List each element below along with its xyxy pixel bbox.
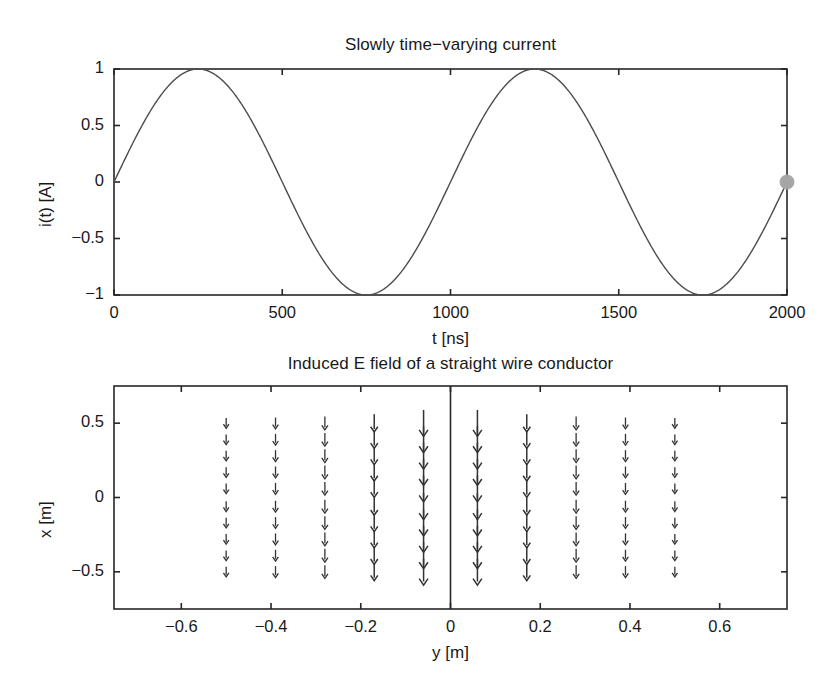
e-field-arrow bbox=[273, 434, 279, 445]
e-field-arrow bbox=[623, 467, 629, 478]
e-field-arrow bbox=[672, 434, 677, 444]
e-field-arrow bbox=[623, 517, 629, 528]
e-field-arrow bbox=[523, 447, 530, 465]
e-field-arrow bbox=[473, 559, 482, 586]
e-field-arrow bbox=[573, 500, 579, 513]
e-field-arrow bbox=[523, 498, 530, 516]
bottom-plot-graphic bbox=[0, 0, 832, 694]
e-field-arrow bbox=[371, 480, 378, 498]
e-field-arrow bbox=[273, 417, 279, 428]
e-field-arrow bbox=[371, 431, 378, 449]
bottom-plot-y-tick-label: 0.5 bbox=[4, 412, 104, 431]
e-field-arrow bbox=[223, 484, 228, 494]
e-field-arrow bbox=[273, 483, 279, 494]
e-field-arrow bbox=[322, 433, 328, 446]
e-field-arrow bbox=[672, 418, 677, 428]
e-field-arrow bbox=[322, 417, 328, 430]
e-field-arrow bbox=[322, 549, 328, 562]
e-field-arrow bbox=[223, 550, 228, 560]
e-field-arrow bbox=[573, 417, 579, 430]
e-field-arrow bbox=[672, 484, 677, 494]
e-field-arrow bbox=[672, 550, 677, 560]
e-field-arrow bbox=[273, 550, 279, 561]
e-field-arrow bbox=[523, 563, 530, 581]
e-field-arrow bbox=[672, 451, 677, 461]
figure-canvas: Slowly time−varying current i(t) [A] t [… bbox=[0, 0, 832, 694]
e-field-arrow bbox=[623, 533, 629, 544]
e-field-arrow bbox=[223, 534, 228, 544]
e-field-arrow bbox=[573, 532, 579, 545]
e-field-arrow bbox=[371, 563, 378, 581]
e-field-arrow bbox=[573, 516, 579, 529]
e-field-arrow bbox=[523, 480, 530, 498]
e-field-arrow bbox=[523, 414, 530, 432]
e-field-arrow bbox=[371, 498, 378, 516]
e-field-arrow bbox=[322, 532, 328, 545]
e-field-arrow bbox=[523, 547, 530, 565]
bottom-plot-x-tick-label: −0.4 bbox=[221, 617, 321, 636]
e-field-arrow bbox=[223, 567, 228, 577]
e-field-arrow bbox=[371, 530, 378, 548]
e-field-arrow bbox=[573, 549, 579, 562]
bottom-plot-x-tick-label: −0.6 bbox=[131, 617, 231, 636]
e-field-arrow bbox=[523, 431, 530, 449]
e-field-arrow bbox=[371, 547, 378, 565]
e-field-arrow bbox=[223, 451, 228, 461]
e-field-arrow bbox=[573, 482, 579, 495]
bottom-plot-x-tick-label: 0.4 bbox=[580, 617, 680, 636]
bottom-plot-y-tick-label: 0 bbox=[4, 487, 104, 506]
e-field-arrow bbox=[623, 450, 629, 461]
e-field-arrow bbox=[223, 434, 228, 444]
e-field-arrow bbox=[223, 518, 228, 528]
e-field-arrow bbox=[322, 500, 328, 513]
bottom-plot-x-tick-label: 0 bbox=[401, 617, 501, 636]
e-field-arrow bbox=[322, 516, 328, 529]
e-field-arrow bbox=[523, 530, 530, 548]
e-field-arrow bbox=[623, 501, 629, 512]
e-field-arrow bbox=[623, 566, 629, 577]
e-field-arrow bbox=[273, 467, 279, 478]
e-field-arrow bbox=[672, 467, 677, 477]
e-field-arrow bbox=[273, 533, 279, 544]
e-field-arrow bbox=[273, 566, 279, 577]
e-field-arrow bbox=[573, 433, 579, 446]
bottom-plot-y-tick-label: −0.5 bbox=[4, 561, 104, 580]
e-field-arrow bbox=[573, 466, 579, 479]
e-field-arrow bbox=[623, 434, 629, 445]
e-field-arrow bbox=[672, 518, 677, 528]
bottom-plot-x-tick-label: 0.6 bbox=[670, 617, 770, 636]
bottom-plot-x-tick-label: 0.2 bbox=[490, 617, 590, 636]
e-field-arrow bbox=[573, 565, 579, 578]
e-field-arrow bbox=[672, 534, 677, 544]
e-field-arrow bbox=[223, 418, 228, 428]
e-field-arrow bbox=[371, 514, 378, 532]
e-field-arrow bbox=[623, 483, 629, 494]
e-field-arrow bbox=[273, 450, 279, 461]
e-field-arrow bbox=[273, 501, 279, 512]
e-field-arrow bbox=[371, 447, 378, 465]
e-field-arrow bbox=[672, 567, 677, 577]
e-field-arrow bbox=[523, 463, 530, 481]
e-field-arrow bbox=[322, 449, 328, 462]
e-field-arrow bbox=[223, 467, 228, 477]
e-field-arrow bbox=[672, 501, 677, 511]
e-field-arrow bbox=[322, 482, 328, 495]
e-field-arrow bbox=[322, 565, 328, 578]
e-field-arrow bbox=[371, 414, 378, 432]
e-field-arrow bbox=[371, 463, 378, 481]
e-field-arrow bbox=[273, 517, 279, 528]
e-field-arrow bbox=[523, 514, 530, 532]
e-field-arrow bbox=[223, 501, 228, 511]
e-field-arrow bbox=[623, 550, 629, 561]
e-field-arrow bbox=[322, 466, 328, 479]
e-field-arrow bbox=[623, 417, 629, 428]
bottom-plot-x-tick-label: −0.2 bbox=[311, 617, 411, 636]
e-field-arrow bbox=[573, 449, 579, 462]
e-field-arrow bbox=[419, 559, 428, 586]
